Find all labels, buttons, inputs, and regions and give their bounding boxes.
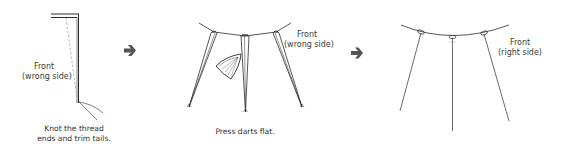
label-front: Front <box>498 38 542 48</box>
step3-fabric-label: Front (right side) <box>498 38 542 58</box>
step1-caption: Knot the thread ends and trim tails. <box>30 124 118 144</box>
center-dart-seam <box>449 35 456 131</box>
center-dart <box>241 35 249 112</box>
dart-finishing-diagram: Front (wrong side) Knot the thread ends … <box>0 0 566 155</box>
arrow-right-icon <box>124 45 136 56</box>
step3-right-side-illustration <box>400 25 509 131</box>
iron-icon <box>216 54 241 79</box>
step2-fabric-label: Front (wrong side) <box>284 30 330 50</box>
label-front: Front <box>284 30 330 40</box>
step1-fabric-label: Front (wrong side) <box>22 62 66 82</box>
label-side: (right side) <box>498 48 542 58</box>
thread-tails <box>79 102 103 120</box>
label-front: Front <box>22 62 66 72</box>
label-side: (wrong side) <box>284 40 330 50</box>
label-side: (wrong side) <box>22 72 66 82</box>
left-dart-seam <box>400 29 425 111</box>
step2-caption: Press darts flat. <box>205 127 285 137</box>
arrow-right-icon <box>351 48 363 59</box>
left-dart <box>187 31 217 107</box>
